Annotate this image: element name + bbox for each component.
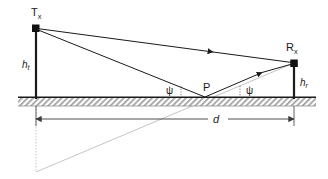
reflected-ray-second-half — [262, 64, 292, 73]
psi-right-label: ψ — [246, 85, 253, 96]
transmitter-group — [32, 25, 40, 100]
distance-dimension — [36, 106, 294, 126]
tx-label: Tx — [31, 6, 42, 21]
image-source-construction — [36, 63, 294, 172]
rx-antenna-node — [290, 60, 298, 68]
receiver-group — [290, 60, 298, 100]
propagation-rays — [37, 29, 292, 98]
reflection-point-label: P — [203, 81, 210, 93]
psi-left-label: ψ — [166, 85, 173, 96]
image-ray-line — [36, 63, 294, 172]
receiver-height-label: hr — [300, 77, 309, 89]
diagram-canvas: Tx Rx ht hr ψ ψ P d — [0, 0, 328, 179]
diagram-labels: Tx Rx ht hr ψ ψ P d — [22, 6, 309, 125]
two-ray-propagation-diagram: Tx Rx ht hr ψ ψ P d — [0, 0, 328, 179]
distance-label: d — [213, 113, 220, 125]
transmitter-height-label: ht — [22, 59, 31, 71]
rx-label: Rx — [286, 41, 298, 56]
direct-path-ray-second-half — [213, 52, 292, 63]
reflected-ray-first-half — [205, 73, 262, 98]
ground-plane — [18, 97, 316, 106]
ground-hatched-band — [18, 98, 316, 106]
